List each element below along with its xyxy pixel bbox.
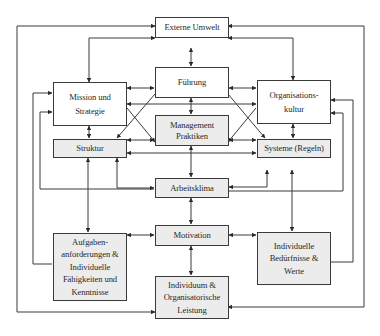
node-label: Management Praktiken [170,120,214,142]
node-motivation: Motivation [155,225,229,246]
node-fuehrung: Führung [155,67,229,98]
node-aufgaben-faehigkeiten: Aufgaben- anforderungen & Individuelle F… [53,233,127,301]
node-label: Mission und Strategie [69,90,111,118]
node-management-praktiken: Management Praktiken [155,115,229,146]
node-struktur: Struktur [53,139,127,158]
node-leistung: Individuum & Organisatorische Leistung [155,276,229,319]
node-arbeitsklima: Arbeitsklima [155,178,229,198]
node-label: Motivation [173,230,210,241]
node-label: Arbeitsklima [170,183,214,194]
node-beduerfnisse-werte: Individuelle Bedürfnisse & Werte [257,232,331,285]
node-externe-umwelt: Externe Umwelt [155,17,229,38]
node-systeme-regeln: Systeme (Regeln) [257,139,331,158]
node-label: Individuum & Organisatorische Leistung [164,279,220,317]
node-label: Systeme (Regeln) [264,143,324,154]
node-label: Individuelle Bedürfnisse & Werte [270,240,319,278]
node-mission-strategie: Mission und Strategie [53,82,127,126]
node-label: Organisations- kultur [269,88,318,116]
node-label: Struktur [76,143,103,154]
node-organisationskultur: Organisations- kultur [257,80,331,124]
node-label: Führung [178,77,206,88]
node-label: Externe Umwelt [164,22,219,33]
node-label: Aufgaben- anforderungen & Individuelle F… [61,236,118,299]
